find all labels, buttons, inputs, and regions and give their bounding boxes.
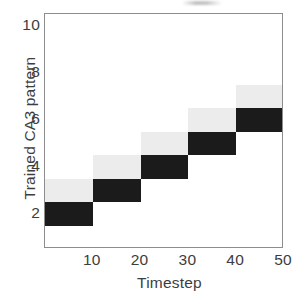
x-axis-tick-label: 40 <box>215 252 255 268</box>
x-axis-title: Timestep <box>0 274 295 292</box>
x-axis-tick-label: 20 <box>120 252 160 268</box>
heatmap-cells <box>45 14 282 247</box>
chart-figure: 246810 1020304050 Timestep Trained CA3 p… <box>0 0 295 300</box>
x-axis-tick-label: 10 <box>72 252 112 268</box>
heatmap-cell <box>188 108 236 132</box>
heatmap-cell <box>236 108 283 132</box>
scan-artifact <box>182 1 222 5</box>
heatmap-cell <box>45 202 93 226</box>
heatmap-cell <box>93 179 141 203</box>
heatmap-cell <box>93 155 141 179</box>
x-axis-tick-labels: 1020304050 <box>0 252 295 274</box>
x-axis-tick-label: 50 <box>263 252 295 268</box>
heatmap-cell <box>45 179 93 203</box>
plot-area <box>44 13 283 248</box>
heatmap-cell <box>188 132 236 156</box>
x-axis-tick-label: 30 <box>167 252 207 268</box>
heatmap-cell <box>141 155 189 179</box>
y-axis-title: Trained CA3 pattern <box>21 28 39 228</box>
heatmap-cell <box>236 85 283 109</box>
heatmap-cell <box>141 132 189 156</box>
